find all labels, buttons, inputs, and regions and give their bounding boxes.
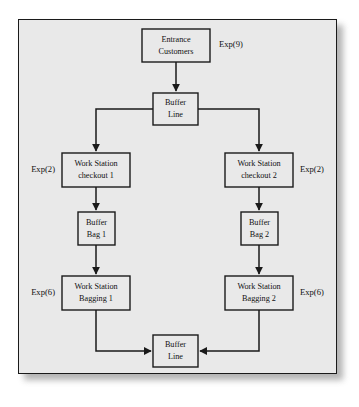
node-work-station-checkout-1[interactable]: Work Station checkout 1 [62,153,130,187]
diagram-canvas: Entrance Customers Buffer Line Work Stat… [0,0,359,407]
flowchart-svg: Entrance Customers Buffer Line Work Stat… [0,0,359,407]
rate-label-bagging-2: Exp(6) [300,287,324,297]
node-buffer-bag-1[interactable]: Buffer Bag 1 [78,212,115,245]
node-buffer-bag-1-line1: Buffer [86,218,107,227]
edge-buffer-line-top-to-checkout-2 [198,109,259,151]
node-work-station-bagging-2-line1: Work Station [237,282,280,291]
node-buffer-bag-1-line2: Bag 1 [87,230,106,239]
node-work-station-bagging-2-line2: Bagging 2 [242,294,276,303]
edge-buffer-line-top-to-checkout-1 [96,109,153,151]
node-work-station-bagging-2[interactable]: Work Station Bagging 2 [225,276,293,310]
edge-bagging-2-to-buffer-line-bottom [200,310,259,351]
node-buffer-line-top-line2: Line [168,110,183,119]
node-work-station-checkout-2-line2: checkout 2 [241,171,277,180]
rate-label-checkout-1: Exp(2) [31,164,55,174]
node-work-station-checkout-2[interactable]: Work Station checkout 2 [225,153,293,187]
node-buffer-line-top[interactable]: Buffer Line [153,93,198,125]
rate-label-entrance: Exp(9) [219,39,243,49]
node-work-station-checkout-1-line2: checkout 1 [78,171,114,180]
node-work-station-checkout-1-line1: Work Station [74,159,117,168]
node-buffer-bag-2[interactable]: Buffer Bag 2 [241,212,278,245]
node-buffer-line-bottom[interactable]: Buffer Line [153,335,198,367]
node-work-station-bagging-1-line2: Bagging 1 [79,294,113,303]
edge-bagging-1-to-buffer-line-bottom [96,310,151,351]
node-work-station-bagging-1-line1: Work Station [74,282,117,291]
node-buffer-bag-2-line1: Buffer [249,218,270,227]
node-entrance-customers-line1: Entrance [161,35,190,44]
node-entrance-customers[interactable]: Entrance Customers [142,29,210,62]
node-buffer-line-bottom-line2: Line [168,352,183,361]
node-buffer-line-bottom-line1: Buffer [165,340,186,349]
node-work-station-bagging-1[interactable]: Work Station Bagging 1 [62,276,130,310]
node-work-station-checkout-2-line1: Work Station [237,159,280,168]
node-entrance-customers-line2: Customers [158,47,193,56]
rate-label-checkout-2: Exp(2) [300,164,324,174]
node-buffer-line-top-line1: Buffer [165,98,186,107]
rate-label-bagging-1: Exp(6) [31,287,55,297]
node-buffer-bag-2-line2: Bag 2 [250,230,269,239]
